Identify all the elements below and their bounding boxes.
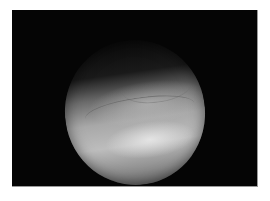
image-frame [12,10,258,187]
endoscopic-field-of-view [56,31,215,187]
